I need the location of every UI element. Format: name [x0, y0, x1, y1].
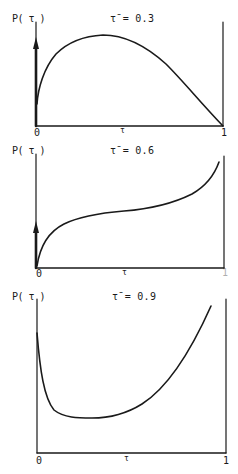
- x-tick-1: 1: [222, 267, 228, 278]
- x-axis-label: τ: [120, 126, 125, 135]
- panel-title: τ̄ = 0.9: [112, 291, 156, 302]
- x-tick-0: 0: [34, 127, 40, 138]
- x-tick-1: 1: [221, 127, 227, 138]
- panel-2: P( τ ) τ̄ = 0.6 0 τ 1: [0, 140, 238, 290]
- x-axis-label: τ: [124, 454, 129, 463]
- x-axis-label: τ: [122, 268, 127, 277]
- panel-1: P( τ ) τ̄ = 0.3 0 τ 1: [0, 0, 238, 140]
- y-axis-label: P( τ ): [12, 13, 45, 24]
- y-axis-label: P( τ ): [12, 291, 45, 302]
- y-axis-label: P( τ ): [12, 145, 45, 156]
- panel-title: τ̄ = 0.6: [110, 145, 154, 156]
- x-tick-0: 0: [36, 455, 42, 466]
- x-tick-0: 0: [36, 268, 42, 279]
- panel-title: τ̄ = 0.3: [110, 13, 154, 24]
- panel-3: P( τ ) τ̄ = 0.9 0 τ 1: [0, 280, 238, 474]
- x-tick-1: 1: [223, 455, 229, 466]
